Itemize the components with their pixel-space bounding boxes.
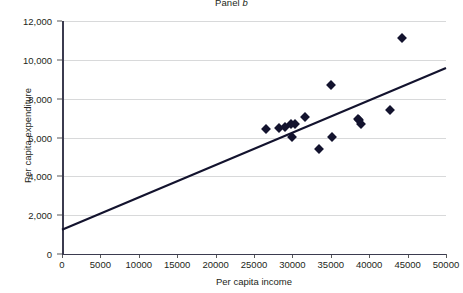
- chart-title: Panel b: [0, 0, 463, 8]
- y-tick-label: 2,000: [6, 210, 52, 221]
- x-axis-line: [62, 254, 446, 255]
- data-point-marker: [300, 112, 310, 122]
- gridline: [62, 99, 446, 100]
- chart-title-text: Panel: [215, 0, 240, 8]
- scatter-chart-figure: Panel b Per capita expenditure Per capit…: [0, 0, 463, 293]
- x-tick-label: 50000: [416, 259, 463, 270]
- y-tick-label: 4,000: [6, 171, 52, 182]
- y-tick-label: 6,000: [6, 132, 52, 143]
- gridline: [62, 21, 446, 22]
- gridline: [62, 138, 446, 139]
- data-point-marker: [314, 144, 324, 154]
- y-tick-label: 0: [6, 249, 52, 260]
- data-point-marker: [287, 132, 297, 142]
- chart-title-panel-letter: b: [243, 0, 248, 8]
- data-point-marker: [326, 80, 336, 90]
- data-point-marker: [261, 124, 271, 134]
- data-point-marker: [385, 105, 395, 115]
- trend-line: [0, 0, 463, 293]
- y-axis-line: [62, 21, 64, 255]
- x-axis-label: Per capita income: [62, 276, 446, 287]
- x-tick-mark: [446, 254, 447, 258]
- data-point-marker: [397, 33, 407, 43]
- data-point-marker: [327, 132, 337, 142]
- y-tick-label: 8,000: [6, 93, 52, 104]
- gridline: [62, 60, 446, 61]
- gridline: [62, 215, 446, 216]
- y-tick-label: 12,000: [6, 16, 52, 27]
- y-tick-label: 10,000: [6, 54, 52, 65]
- gridline: [62, 176, 446, 177]
